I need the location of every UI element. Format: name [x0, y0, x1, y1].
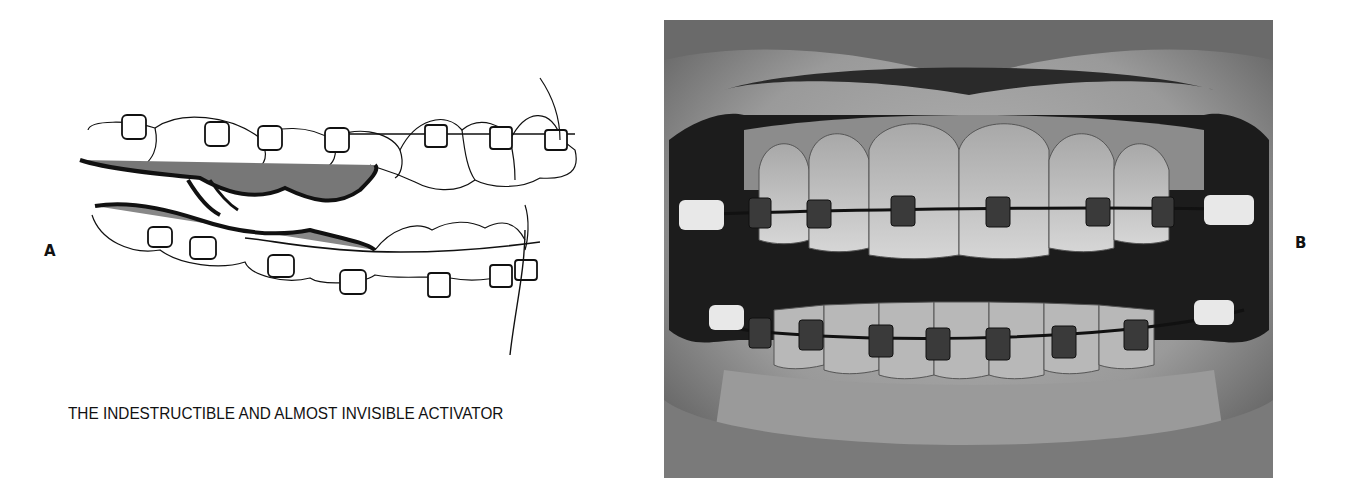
panel-a-label: A: [44, 242, 56, 260]
figure-caption: THE INDESTRUCTIBLE AND ALMOST INVISIBLE …: [68, 404, 503, 423]
clinical-photo-braces: [664, 20, 1273, 478]
panel-b-label: B: [1295, 234, 1306, 252]
activator-line-drawing: [70, 70, 600, 360]
